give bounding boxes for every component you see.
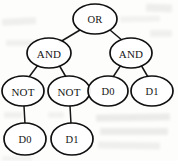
tree-edge-n2-n5 [113,65,121,77]
tree-node-or-n0[interactable]: OR [73,4,117,34]
node-label: AND [37,48,61,60]
node-label: D1 [145,86,158,97]
node-label: AND [119,48,143,60]
node-label: NOT [57,86,80,98]
tree-edge-n1-n3 [29,65,38,77]
tree-node-d1-n8[interactable]: D1 [51,123,93,155]
node-label: D0 [18,134,31,145]
tree-edge-n0-n1 [60,30,80,42]
node-label: D1 [65,134,78,145]
tree-edge-n3-n7 [24,106,25,124]
node-label: OR [88,14,103,25]
tree-edge-n2-n6 [141,65,148,77]
node-label: D0 [101,86,114,97]
tree-node-not-n3[interactable]: NOT [2,76,44,106]
tree-node-and-n1[interactable]: AND [27,38,71,68]
tree-node-d1-n6[interactable]: D1 [131,76,173,106]
tree-node-and-n2[interactable]: AND [110,38,152,68]
tree-diagram: ORANDANDNOTNOTD0D1D0D1 [0,0,178,161]
tree-node-d0-n7[interactable]: D0 [4,123,46,155]
tree-edge-n4-n8 [70,106,71,124]
node-label: NOT [11,86,34,98]
expression-tree-figure: ORANDANDNOTNOTD0D1D0D1 [0,0,178,161]
tree-node-not-n4[interactable]: NOT [48,76,90,106]
node-layer: ORANDANDNOTNOTD0D1D0D1 [2,4,173,155]
tree-node-d0-n5[interactable]: D0 [88,76,128,106]
